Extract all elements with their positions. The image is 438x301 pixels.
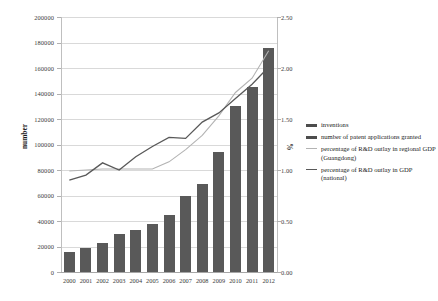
left-tick-mark <box>57 196 61 197</box>
right-tick-mark <box>277 17 281 18</box>
left-tick-mark <box>57 119 61 120</box>
legend-item[interactable]: percentage of R&D outlay in regional GDP… <box>306 145 438 162</box>
right-axis-line <box>277 17 278 273</box>
left-tick-label: 200000 <box>0 14 54 21</box>
legend-item[interactable]: number of patent applications granted <box>306 133 438 142</box>
left-tick-label: 180000 <box>0 39 54 46</box>
left-tick-mark <box>57 272 61 273</box>
legend-item[interactable]: percentage of R&D outlay in GDP (nationa… <box>306 166 438 183</box>
left-tick-mark <box>57 68 61 69</box>
right-tick-label: 2.00 <box>281 65 311 72</box>
x-tick-label: 2012 <box>258 277 280 285</box>
chart-legend: inventionsnumber of patent applications … <box>306 121 438 186</box>
right-tick-mark <box>277 170 281 171</box>
legend-item-label: inventions <box>321 121 438 130</box>
left-tick-label: 0 <box>0 269 54 276</box>
line-national <box>69 67 268 180</box>
left-axis-line <box>61 17 62 273</box>
legend-swatch-icon <box>306 148 317 149</box>
legend-swatch-icon <box>306 169 317 170</box>
legend-item-label: percentage of R&D outlay in regional GDP… <box>321 145 438 162</box>
right-tick-label: 0.50 <box>281 218 311 225</box>
legend-swatch-icon <box>306 136 317 139</box>
line-guangdong <box>69 51 268 171</box>
right-tick-mark <box>277 272 281 273</box>
left-tick-label: 20000 <box>0 243 54 250</box>
line-series-layer <box>61 17 277 272</box>
legend-item[interactable]: inventions <box>306 121 438 130</box>
right-tick-label: 2.50 <box>281 14 311 21</box>
combo-chart: 2000001800001600001400001200001000008000… <box>0 0 438 301</box>
left-tick-label: 80000 <box>0 167 54 174</box>
left-tick-mark <box>57 17 61 18</box>
left-tick-label: 140000 <box>0 90 54 97</box>
bottom-axis-line <box>61 272 278 273</box>
legend-swatch-icon <box>306 124 317 127</box>
left-tick-mark <box>57 221 61 222</box>
right-tick-label: 0.00 <box>281 269 311 276</box>
legend-item-label: number of patent applications granted <box>321 133 438 142</box>
left-axis-title: number <box>20 107 29 167</box>
left-tick-mark <box>57 247 61 248</box>
right-axis-title: % <box>287 139 295 155</box>
left-tick-label: 60000 <box>0 192 54 199</box>
right-tick-mark <box>277 119 281 120</box>
left-tick-label: 160000 <box>0 65 54 72</box>
left-tick-mark <box>57 145 61 146</box>
left-tick-mark <box>57 94 61 95</box>
right-tick-mark <box>277 68 281 69</box>
left-tick-mark <box>57 170 61 171</box>
legend-item-label: percentage of R&D outlay in GDP (nationa… <box>321 166 438 183</box>
left-tick-mark <box>57 43 61 44</box>
left-tick-label: 40000 <box>0 218 54 225</box>
right-tick-mark <box>277 221 281 222</box>
